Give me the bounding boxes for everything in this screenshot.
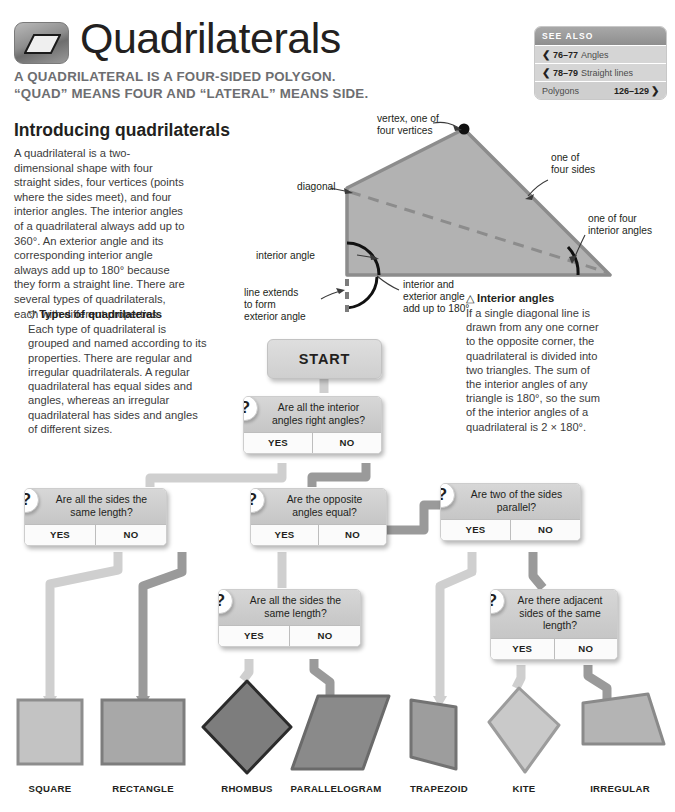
section-heading-introducing: Introducing quadrilaterals	[14, 120, 230, 141]
answer-yes[interactable]: YES	[244, 433, 313, 453]
line-extends-leader	[321, 291, 342, 299]
shape-label-kite: KITE	[487, 783, 561, 794]
label-int-ext-line1: interior and	[403, 279, 454, 290]
subtitle-line-2: “QUAD” MEANS FOUR AND “LATERAL” MEANS SI…	[14, 85, 534, 102]
connector-q5yes-rhombus	[243, 659, 249, 680]
chevron-right-icon: ❯	[651, 85, 659, 96]
sides-leader	[528, 180, 548, 196]
question-line-2: parallel?	[497, 502, 536, 513]
page-subtitle: A QUADRILATERAL IS A FOUR-SIDED POLYGON.…	[14, 68, 534, 102]
question-text: Are all the sides the same length?	[219, 590, 360, 625]
triangle-down-icon: ▽	[28, 308, 36, 320]
question-line-1: Are there adjacent	[518, 595, 603, 606]
chevron-left-icon: ❮	[542, 49, 550, 60]
label-diagonal: diagonal	[297, 181, 336, 192]
interior-angles-caption: △ Interior angles If a single diagonal l…	[466, 292, 601, 434]
shape-square	[18, 700, 82, 764]
label-line-extends-line2: to form	[244, 299, 276, 310]
answer-yes[interactable]: YES	[251, 525, 319, 545]
diagonal-leader	[330, 188, 350, 192]
decision-node-two-sides-parallel[interactable]: Are two of the sides parallel? YES NO ?	[440, 483, 581, 541]
decision-node-interior-right-angles[interactable]: Are all the interior angles right angles…	[243, 396, 382, 454]
label-line-extends-line1: line extends	[244, 287, 298, 298]
answer-no[interactable]: NO	[290, 626, 360, 646]
answer-no[interactable]: NO	[555, 639, 618, 659]
label-line-extends-line3: exterior angle	[244, 311, 306, 322]
label-one-of-four-interior-line1: one of four	[588, 213, 637, 224]
interior-angles-heading-text: Interior angles	[477, 292, 554, 304]
connector-q2yes-square	[50, 552, 118, 700]
question-line-1: Are all the sides the	[56, 494, 147, 505]
see-also-label: Polygons	[542, 86, 579, 96]
answer-no[interactable]: NO	[511, 520, 580, 540]
see-also-box: SEE ALSO ❮ 76–77 Angles ❮ 78–79 Straight…	[534, 26, 667, 100]
parallelogram-icon	[14, 22, 69, 64]
shape-label-rhombus: RHOMBUS	[207, 783, 287, 794]
interior-angles-body: If a single diagonal line is drawn from …	[466, 306, 601, 434]
types-body: Each type of quadrilateral is grouped an…	[28, 322, 208, 436]
connector-q5no-parallelogram	[314, 659, 330, 696]
answer-no[interactable]: NO	[319, 525, 386, 545]
shape-label-parallelogram: PARALLELOGRAM	[283, 783, 389, 794]
quadrilateral-shape	[347, 129, 610, 275]
start-label: START	[299, 351, 350, 367]
see-also-row-polygons[interactable]: Polygons 126–129 ❯	[535, 81, 666, 99]
answer-yes[interactable]: YES	[219, 626, 290, 646]
decision-node-all-sides-same-length-left[interactable]: Are all the sides the same length? YES N…	[24, 488, 167, 546]
answer-yes[interactable]: YES	[25, 525, 96, 545]
question-line-1: Are two of the sides	[471, 489, 562, 500]
question-line-2: sides of the same	[519, 608, 600, 619]
label-vertex-line2: four vertices	[377, 125, 432, 136]
see-also-pages: 76–77	[553, 50, 578, 60]
decision-node-opposite-angles-equal[interactable]: Are the opposite angles equal? YES NO ?	[250, 488, 387, 546]
vertex-leader	[433, 122, 459, 128]
types-heading-text: Types of quadrilaterals	[39, 308, 162, 320]
see-also-row-angles[interactable]: ❮ 76–77 Angles	[535, 45, 666, 63]
question-text: Are two of the sides parallel?	[441, 484, 580, 519]
interior-angle-leader	[357, 255, 376, 258]
question-line-2: angles right angles?	[272, 415, 365, 426]
shape-rhombus	[203, 681, 291, 773]
connector-q1no-q3	[312, 463, 366, 487]
label-one-of-four-interior-line2: interior angles	[588, 225, 652, 236]
types-of-quadrilaterals-block: ▽ Types of quadrilaterals Each type of q…	[28, 308, 208, 436]
page-root: Quadrilaterals A QUADRILATERAL IS A FOUR…	[0, 0, 675, 812]
see-also-row-straight-lines[interactable]: ❮ 78–79 Straight lines	[535, 63, 666, 81]
question-line-2: angles equal?	[292, 507, 357, 518]
question-line-2: same length?	[264, 608, 326, 619]
question-line-1: Are all the sides the	[250, 595, 341, 606]
question-text: Are the opposite angles equal?	[251, 489, 386, 524]
decision-node-all-sides-same-length-center[interactable]: Are all the sides the same length? YES N…	[218, 589, 361, 647]
label-one-of-four-sides-line1: one of	[551, 152, 579, 163]
see-also-label: Angles	[581, 50, 609, 60]
shape-parallelogram	[292, 696, 389, 769]
flowchart-start-node[interactable]: START	[267, 339, 382, 379]
answer-no[interactable]: NO	[313, 433, 381, 453]
connector-q4yes-trapezoid	[440, 552, 472, 700]
subtitle-line-1: A QUADRILATERAL IS A FOUR-SIDED POLYGON.	[14, 68, 534, 85]
shape-label-square: SQUARE	[10, 783, 90, 794]
connector-q1yes-q2	[150, 463, 282, 487]
vertex-dot	[459, 124, 470, 135]
exterior-angle-arc	[347, 277, 377, 308]
question-line-1: Are all the interior	[278, 402, 359, 413]
connector-q3no-q4	[386, 505, 440, 530]
arrowhead-rect	[136, 696, 150, 708]
label-one-of-four-sides-line2: four sides	[551, 164, 595, 175]
intro-paragraph: A quadrilateral is a two-dimensional sha…	[14, 146, 189, 321]
shape-label-irregular: IRREGULAR	[575, 783, 665, 794]
see-also-heading: SEE ALSO	[535, 27, 666, 45]
answer-yes[interactable]: YES	[491, 639, 555, 659]
shape-label-rectangle: RECTANGLE	[103, 783, 183, 794]
one-of-four-interior-leader	[573, 235, 585, 261]
shape-trapezoid	[411, 700, 456, 769]
answer-no[interactable]: NO	[96, 525, 166, 545]
decision-node-adjacent-sides-same-length[interactable]: Are there adjacent sides of the same len…	[490, 589, 618, 660]
right-interior-angle-arc	[568, 247, 578, 275]
label-int-ext-line3: add up to 180°	[403, 303, 469, 314]
connector-q2no-rect	[143, 552, 182, 700]
int-ext-leader	[377, 276, 399, 290]
answer-yes[interactable]: YES	[441, 520, 511, 540]
question-text: Are all the sides the same length?	[25, 489, 166, 524]
interior-angle-arc	[347, 243, 379, 275]
